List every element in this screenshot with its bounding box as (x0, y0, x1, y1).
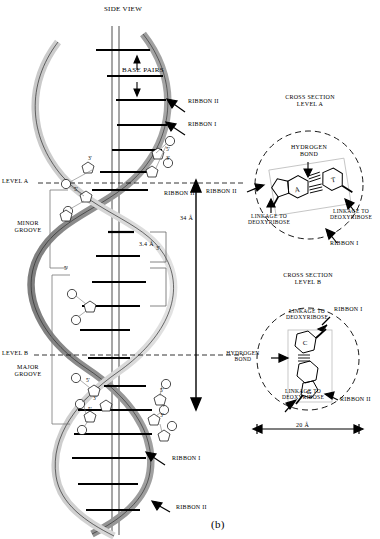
ribbon-i-label-lower: RIBBON I (172, 455, 201, 462)
major-groove-label: MAJOR GROOVE (6, 364, 50, 378)
cross-section-b-group: C G (253, 308, 363, 434)
ribbon-ii-label-mid: RIBBON II (164, 190, 195, 197)
linkage-label-b-top: LINKAGE TO DEOXYRIBOSE (276, 308, 338, 321)
sugar-unit: S (100, 400, 112, 411)
carbon-label: 3' (93, 395, 97, 401)
carbon-label: 3' (166, 155, 170, 161)
svg-text:S: S (64, 214, 67, 220)
linkage-label-a-right: LINKAGE TO DEOXYRIBOSE (322, 208, 380, 221)
carbon-label: 5' (64, 265, 68, 271)
sugar-unit: S (82, 162, 94, 173)
cross-section-b-title: CROSS SECTION LEVEL B (260, 272, 356, 286)
carbon-label: 3' (88, 155, 92, 161)
svg-text:S: S (88, 305, 91, 311)
minor-groove-label: MINOR GROOVE (6, 220, 50, 234)
diameter-label: 20 Å (296, 422, 309, 429)
sugar-unit: S (84, 301, 96, 312)
cross-section-a-title: CROSS SECTION LEVEL A (262, 94, 358, 108)
base-pairs-label: BASE PAIRS (122, 66, 164, 74)
ribbon-i-label-b: RIBBON I (334, 306, 363, 313)
sugar-unit: S (148, 414, 160, 425)
phosphate-unit: P (77, 425, 86, 434)
panel-label: (b) (211, 518, 225, 531)
carbon-label: 5' (74, 186, 78, 192)
svg-text:C: C (303, 339, 308, 347)
svg-text:S: S (152, 418, 155, 424)
linkage-label-b-bottom: LINKAGE TO DEOXYRIBOSE (272, 388, 334, 401)
ribbon-i-label-a: RIBBON I (330, 240, 359, 247)
phosphate-unit: P (71, 315, 80, 324)
svg-text:S: S (84, 195, 87, 201)
svg-text:T: T (330, 176, 336, 185)
sugar-unit: S (158, 430, 170, 441)
phosphate-unit: P (67, 289, 76, 298)
svg-text:S: S (162, 434, 165, 440)
phosphate-unit: P (167, 421, 176, 430)
svg-text:S: S (86, 166, 89, 172)
level-b-label: LEVEL B (2, 350, 28, 357)
hydrogen-bond-label-a: HYDROGEN BOND (282, 144, 336, 158)
hydrogen-bond-label-b: HYDROGEN BOND (216, 350, 270, 363)
carbon-label: 5' (86, 377, 90, 383)
ribbon-ii-label-b: RIBBON II (340, 396, 371, 403)
svg-text:S: S (158, 398, 161, 404)
carbon-label: 5' (166, 146, 170, 152)
level-a-label: LEVEL A (2, 178, 28, 185)
svg-text:S: S (88, 415, 91, 421)
carbon-label: 5' (88, 406, 92, 412)
phosphate-unit: P (61, 179, 70, 188)
ribbon-ii-label-bottom: RIBBON II (176, 504, 207, 511)
ribbon-ii-label-top: RIBBON II (188, 98, 219, 105)
phosphate-unit: P (71, 373, 80, 382)
side-view-title: SIDE VIEW (88, 5, 158, 13)
dna-structure-figure: A T (0, 0, 380, 539)
base-pair-rungs (72, 50, 167, 510)
svg-text:A: A (294, 186, 300, 195)
ribbon-i-label-top: RIBBON I (188, 121, 217, 128)
carbon-label: 3' (156, 245, 160, 251)
svg-text:S: S (150, 170, 153, 176)
phosphate-unit: P (165, 136, 174, 145)
carbon-label: 3' (160, 412, 164, 418)
rise-label: 3.4 Å (139, 241, 154, 248)
ribbon-ii-label-a: RIBBON II (206, 188, 237, 195)
pitch-label: 34 Å (180, 215, 193, 222)
rise-bracket-bottom (150, 268, 166, 306)
linkage-label-a-left: LINKAGE TO DEOXYRIBOSE (238, 213, 300, 226)
svg-text:S: S (156, 152, 159, 158)
svg-text:S: S (104, 404, 107, 410)
carbon-label: 5' (160, 387, 164, 393)
